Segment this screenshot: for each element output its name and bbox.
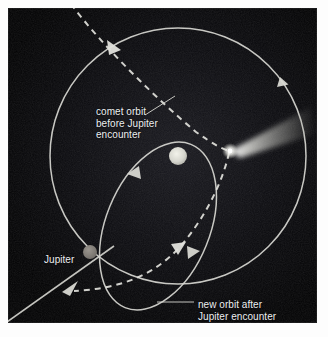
- comet-tail: [230, 107, 315, 158]
- orbit-paths-svg: [8, 8, 317, 323]
- label-new-orbit: new orbit after Jupiter encounter: [198, 299, 276, 322]
- old-orbit-direction-arrow: [277, 77, 289, 87]
- label-comet-orbit: comet orbit before Jupiter encounter: [96, 106, 158, 141]
- sun-marker: [169, 147, 187, 165]
- post-encounter-dashed-path: [74, 153, 229, 291]
- sky-panel: comet orbit before Jupiter encounter Jup…: [8, 8, 317, 323]
- approach-arrow: [62, 281, 78, 296]
- new-orbit-path: [77, 125, 239, 323]
- jupiter-marker: [83, 245, 97, 259]
- comet-nucleus: [228, 149, 233, 154]
- label-jupiter: Jupiter: [44, 254, 74, 266]
- comet-orbit-diagram: comet orbit before Jupiter encounter Jup…: [0, 0, 328, 337]
- new-orbit-arrow-lower: [187, 246, 200, 259]
